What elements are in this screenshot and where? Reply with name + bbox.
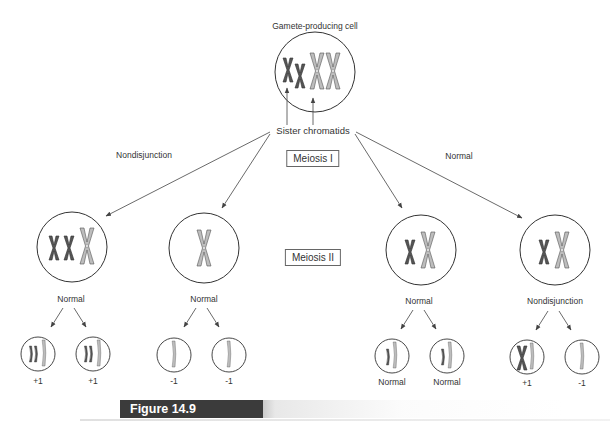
branch-label-left: Nondisjunction xyxy=(116,150,172,160)
gamete-label-8: -1 xyxy=(578,378,586,388)
gamete-3 xyxy=(157,338,191,372)
gamete-4 xyxy=(212,338,246,372)
division-label-1: Normal xyxy=(57,294,84,304)
meiosis-diagram xyxy=(0,0,616,425)
meiosis2-arrows xyxy=(51,308,571,330)
sister-chromatids-label: Sister chromatids xyxy=(276,125,349,136)
gamete-label-6: Normal xyxy=(433,377,460,387)
gamete-6 xyxy=(430,339,464,373)
gamete-1 xyxy=(21,337,55,371)
gamete-7 xyxy=(510,340,544,374)
meiosis2-cell-2 xyxy=(169,213,239,283)
figure-label: Figure 14.9 xyxy=(120,400,263,418)
gamete-5 xyxy=(375,339,409,373)
meiosis2-box: Meiosis II xyxy=(285,249,341,266)
meiosis2-cell-4 xyxy=(520,215,590,285)
gamete-label-7: +1 xyxy=(522,378,532,388)
page-rule xyxy=(80,419,610,421)
gamete-label-3: -1 xyxy=(170,376,178,386)
meiosis1-box: Meiosis I xyxy=(286,150,339,167)
meiosis2-cell-3 xyxy=(386,215,456,285)
gamete-label-5: Normal xyxy=(378,377,405,387)
division-label-2: Normal xyxy=(190,294,217,304)
meiosis2-cell-1 xyxy=(37,212,107,282)
gamete-label-1: +1 xyxy=(33,376,43,386)
gamete-8 xyxy=(565,340,599,374)
division-label-3: Normal xyxy=(405,296,432,306)
gamete-label-4: -1 xyxy=(225,376,233,386)
division-label-4: Nondisjunction xyxy=(527,296,583,306)
gamete-2 xyxy=(76,337,110,371)
gamete-label-2: +1 xyxy=(88,376,98,386)
branch-label-right: Normal xyxy=(445,151,472,161)
sister-chromatid-pointers xyxy=(287,88,313,125)
parent-cell-title: Gamete-producing cell xyxy=(272,21,358,31)
meiosis1-arrows xyxy=(106,132,522,218)
figure-bar-fade xyxy=(263,400,563,418)
